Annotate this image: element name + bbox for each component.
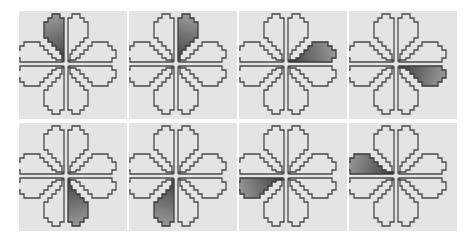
petal-upper-right-vertical <box>178 14 198 61</box>
petal-lower-left-vertical <box>154 179 174 226</box>
petal-lower-left-vertical <box>374 179 394 226</box>
petal-right-upper-horizontal <box>289 154 336 174</box>
panel-4: right-lower-horizontal <box>349 11 457 119</box>
petal-left-upper-horizontal <box>349 42 393 62</box>
flower-pattern-icon <box>239 123 347 231</box>
panel-2: upper-right-vertical <box>129 11 237 119</box>
flower-pattern-icon <box>129 123 237 231</box>
panel-3: right-upper-horizontal <box>239 11 347 119</box>
petal-lower-right-vertical <box>178 67 198 114</box>
petal-upper-left-vertical <box>44 126 64 173</box>
petal-right-lower-horizontal <box>399 66 446 86</box>
panel-6: lower-left-vertical <box>129 123 237 231</box>
petal-lower-right-vertical <box>288 67 308 114</box>
petal-lower-left-vertical <box>264 67 284 114</box>
petal-lower-left-vertical <box>44 67 64 114</box>
panel-7: left-lower-horizontal <box>239 123 347 231</box>
petal-right-lower-horizontal <box>179 178 226 198</box>
petal-right-lower-horizontal <box>289 178 336 198</box>
petal-right-upper-horizontal <box>69 42 116 62</box>
petal-right-lower-horizontal <box>399 178 446 198</box>
petal-upper-left-vertical <box>264 14 284 61</box>
flower-pattern-icon <box>239 11 347 119</box>
petal-left-upper-horizontal <box>239 42 283 62</box>
petal-left-lower-horizontal <box>349 66 393 86</box>
petal-upper-left-vertical <box>44 14 64 61</box>
petal-lower-left-vertical <box>44 179 64 226</box>
petal-lower-right-vertical <box>68 179 88 226</box>
petal-lower-right-vertical <box>178 179 198 226</box>
flower-pattern-icon <box>349 123 457 231</box>
petal-lower-right-vertical <box>288 179 308 226</box>
panel-1: upper-left-vertical <box>19 11 127 119</box>
petal-left-upper-horizontal <box>129 42 173 62</box>
petal-right-lower-horizontal <box>69 66 116 86</box>
petal-upper-right-vertical <box>398 14 418 61</box>
petal-upper-right-vertical <box>178 126 198 173</box>
petal-upper-left-vertical <box>154 14 174 61</box>
petal-lower-right-vertical <box>398 179 418 226</box>
petal-left-upper-horizontal <box>349 154 393 174</box>
petal-right-upper-horizontal <box>399 42 446 62</box>
petal-right-lower-horizontal <box>179 66 226 86</box>
petal-left-upper-horizontal <box>129 154 173 174</box>
petal-left-lower-horizontal <box>19 66 63 86</box>
petal-upper-left-vertical <box>154 126 174 173</box>
petal-left-lower-horizontal <box>239 178 283 198</box>
petal-right-upper-horizontal <box>289 42 336 62</box>
petal-lower-right-vertical <box>68 67 88 114</box>
petal-upper-right-vertical <box>398 126 418 173</box>
petal-left-upper-horizontal <box>239 154 283 174</box>
petal-left-lower-horizontal <box>129 66 173 86</box>
flower-pattern-icon <box>129 11 237 119</box>
flower-pattern-icon <box>19 123 127 231</box>
petal-upper-left-vertical <box>374 14 394 61</box>
flower-panel-grid: upper-left-vertical upper-right-vertical… <box>19 11 457 231</box>
petal-lower-left-vertical <box>154 67 174 114</box>
petal-left-lower-horizontal <box>239 66 283 86</box>
petal-upper-left-vertical <box>264 126 284 173</box>
panel-8: left-upper-horizontal <box>349 123 457 231</box>
petal-right-lower-horizontal <box>289 66 336 86</box>
petal-upper-right-vertical <box>288 126 308 173</box>
flower-pattern-icon <box>19 11 127 119</box>
petal-left-upper-horizontal <box>19 154 63 174</box>
petal-upper-right-vertical <box>68 14 88 61</box>
petal-lower-left-vertical <box>374 67 394 114</box>
flower-pattern-icon <box>349 11 457 119</box>
petal-right-upper-horizontal <box>179 154 226 174</box>
panel-5: lower-right-vertical <box>19 123 127 231</box>
petal-right-upper-horizontal <box>69 154 116 174</box>
petal-left-lower-horizontal <box>349 178 393 198</box>
petal-upper-right-vertical <box>68 126 88 173</box>
petal-left-lower-horizontal <box>19 178 63 198</box>
petal-right-upper-horizontal <box>399 154 446 174</box>
